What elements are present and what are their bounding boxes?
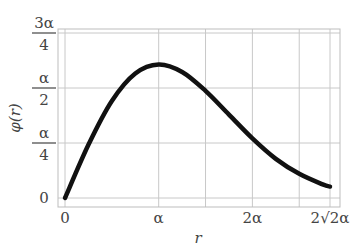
y-tick-numerator: 3α	[34, 14, 54, 32]
x-tick-label: α	[154, 209, 164, 227]
y-tick-denominator: 2	[39, 91, 49, 109]
chart: 0α2α2√2α 0α4α23α4 r φ(r)	[0, 0, 364, 251]
y-tick-label: 3α4	[32, 14, 56, 54]
x-tick-label: 2α	[243, 209, 263, 227]
y-tick-numerator: α	[39, 124, 49, 142]
y-tick-denominator: 4	[39, 36, 49, 54]
series-line-phi	[65, 64, 330, 198]
x-tick-label: 0	[60, 209, 70, 227]
y-axis-ticks: 0α4α23α4	[32, 14, 56, 207]
x-axis-ticks: 0α2α2√2α	[60, 209, 349, 227]
y-tick-numerator: α	[39, 69, 49, 87]
y-tick-denominator: 4	[39, 146, 49, 164]
x-tick-label: 2√2α	[311, 209, 350, 227]
x-axis-label: r	[194, 229, 202, 247]
y-tick-label: α2	[32, 69, 56, 109]
y-axis-label: φ(r)	[6, 103, 24, 133]
y-tick-label: α4	[32, 124, 56, 164]
y-tick-label: 0	[39, 189, 49, 207]
